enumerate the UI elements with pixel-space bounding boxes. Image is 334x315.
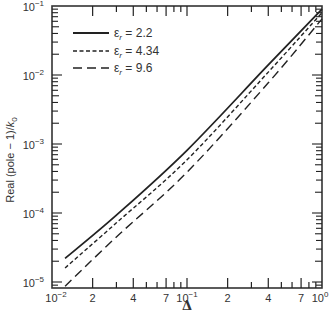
tick-labels: 10−210−110024724710−110−210−310−410−5 (23, 0, 329, 304)
legend: εr = 2.2εr = 4.34εr = 9.6 (73, 26, 159, 77)
tick-marks (52, 6, 322, 288)
y-tick-label: 10−1 (23, 0, 45, 13)
y-axis-title: Real (pole − 1)/k0 (4, 117, 19, 203)
data-curves (65, 9, 322, 286)
y-tick-label: 10−4 (23, 206, 45, 220)
curve-short-dash (65, 13, 322, 268)
y-tick-label: 10−2 (23, 68, 45, 82)
x-tick-label: 4 (265, 292, 271, 304)
x-tick-label: 2 (225, 292, 231, 304)
legend-label: εr = 9.6 (114, 61, 153, 77)
x-tick-label: 10−2 (45, 290, 67, 304)
x-axis-title: Δ (182, 298, 192, 313)
plot-border (52, 6, 322, 288)
x-tick-label: 7 (298, 292, 304, 304)
y-tick-label: 10−5 (23, 275, 45, 289)
curve-solid (65, 9, 322, 258)
x-tick-label: 4 (130, 292, 136, 304)
plot-frame (52, 6, 322, 288)
y-tick-label: 10−3 (23, 137, 45, 151)
x-tick-label: 100 (312, 290, 329, 304)
legend-label: εr = 2.2 (114, 26, 153, 42)
chart: 10−210−110024724710−110−210−310−410−5 εr… (0, 0, 334, 315)
x-tick-label: 2 (90, 292, 96, 304)
legend-label: εr = 4.34 (114, 44, 159, 60)
x-tick-label: 7 (163, 292, 169, 304)
